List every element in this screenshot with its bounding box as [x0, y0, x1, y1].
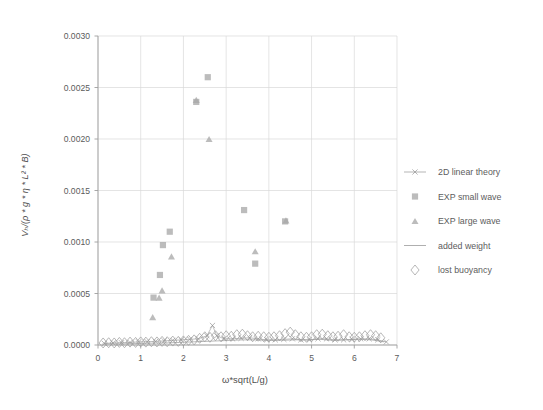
x-axis-title: ω*sqrt(L/g): [222, 374, 268, 385]
marker-triangle: [156, 295, 163, 301]
chart-legend: 2D linear theoryEXP small waveEXP large …: [404, 167, 502, 275]
legend-label: lost buoyancy: [438, 265, 492, 275]
y-tick-label: 0.0025: [64, 83, 91, 93]
axis-lines: [95, 36, 398, 349]
legend-item-lost-buoyancy[interactable]: lost buoyancy: [411, 265, 492, 275]
marker-x: [384, 339, 389, 344]
data-series-layer: [99, 74, 389, 348]
y-axis-title: Vₕ/(ρ * g * η * L² * B): [20, 153, 30, 236]
marker-square: [160, 242, 166, 248]
x-tick-label: 2: [181, 353, 186, 363]
y-tick-label: 0.0000: [64, 340, 91, 350]
marker-diamond: [99, 338, 107, 348]
x-tick-label: 6: [352, 353, 357, 363]
legend-label: 2D linear theory: [438, 167, 501, 177]
marker-triangle: [412, 218, 419, 224]
marker-square: [150, 295, 156, 301]
series-exp-large-wave: [149, 97, 289, 321]
x-tick-label: 5: [309, 353, 314, 363]
series-exp-small-wave: [150, 74, 288, 301]
y-tick-label: 0.0015: [64, 186, 91, 196]
y-tick-label: 0.0020: [64, 134, 91, 144]
marker-triangle: [159, 287, 166, 293]
marker-triangle: [149, 314, 156, 320]
scatter-plot: 0.00000.00050.00100.00150.00200.00250.00…: [0, 0, 543, 410]
x-tick-label: 3: [224, 353, 229, 363]
legend-label: EXP small wave: [438, 192, 502, 202]
marker-square: [252, 261, 258, 267]
legend-item-2d-linear-theory[interactable]: 2D linear theory: [404, 167, 501, 177]
marker-triangle: [168, 253, 175, 259]
marker-square: [157, 272, 163, 278]
legend-item-added-weight[interactable]: added weight: [404, 241, 491, 251]
marker-diamond: [302, 332, 310, 342]
x-tick-label: 4: [266, 353, 271, 363]
marker-square: [205, 74, 211, 80]
x-tick-label: 7: [395, 353, 400, 363]
marker-square: [167, 229, 173, 235]
marker-triangle: [252, 248, 259, 254]
gridlines: [98, 36, 397, 345]
y-axis-tick-labels: 0.00000.00050.00100.00150.00200.00250.00…: [64, 31, 91, 350]
legend-label: added weight: [438, 241, 491, 251]
legend-item-exp-large-wave[interactable]: EXP large wave: [412, 216, 501, 226]
chart-figure: 0.00000.00050.00100.00150.00200.00250.00…: [0, 0, 543, 410]
x-axis-tick-labels: 01234567: [96, 353, 400, 363]
legend-label: EXP large wave: [438, 216, 501, 226]
y-tick-label: 0.0005: [64, 289, 91, 299]
y-tick-label: 0.0030: [64, 31, 91, 41]
x-tick-label: 1: [138, 353, 143, 363]
marker-x: [210, 323, 215, 328]
legend-item-exp-small-wave[interactable]: EXP small wave: [412, 192, 502, 202]
series-2d-linear-theory: [102, 323, 389, 346]
x-tick-label: 0: [96, 353, 101, 363]
marker-diamond: [411, 265, 419, 275]
y-tick-label: 0.0010: [64, 237, 91, 247]
marker-square: [241, 207, 247, 213]
marker-square: [412, 193, 418, 199]
